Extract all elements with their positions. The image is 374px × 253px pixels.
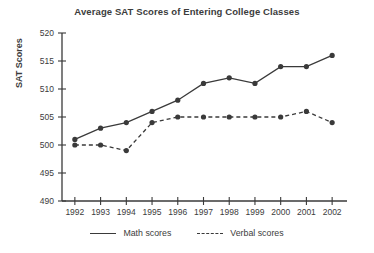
data-point-marker <box>124 148 129 153</box>
x-tick-label: 1996 <box>168 207 187 217</box>
data-point-marker <box>227 75 232 80</box>
x-tick-label: 1994 <box>117 207 136 217</box>
y-tick-label: 500 <box>40 140 54 150</box>
data-point-marker <box>98 126 103 131</box>
y-tick-label: 490 <box>40 196 54 206</box>
legend-entry-verbal: Verbal scores <box>197 228 283 238</box>
data-point-marker <box>98 142 103 147</box>
y-tick-label: 515 <box>40 56 54 66</box>
y-tick-label: 510 <box>40 84 54 94</box>
series-line-solid <box>75 55 332 139</box>
data-point-marker <box>72 137 77 142</box>
data-point-marker <box>149 120 154 125</box>
x-tick-label: 1998 <box>220 207 239 217</box>
data-point-marker <box>72 142 77 147</box>
legend-entry-math: Math scores <box>90 228 171 238</box>
data-point-marker <box>252 114 257 119</box>
data-point-marker <box>278 114 283 119</box>
data-series-layer <box>72 53 334 153</box>
chart-legend: Math scores Verbal scores <box>0 228 374 238</box>
legend-label-verbal: Verbal scores <box>230 228 283 238</box>
x-axis-ticks: 1992199319941995199619971998199920002001… <box>65 197 341 217</box>
x-tick-label: 2002 <box>323 207 342 217</box>
x-tick-label: 1993 <box>91 207 110 217</box>
x-tick-label: 2001 <box>297 207 316 217</box>
data-point-marker <box>175 98 180 103</box>
legend-label-math: Math scores <box>123 228 171 238</box>
x-tick-label: 1997 <box>194 207 213 217</box>
data-point-marker <box>304 109 309 114</box>
data-point-marker <box>252 81 257 86</box>
dashed-line-swatch <box>197 233 223 234</box>
y-tick-label: 495 <box>40 168 54 178</box>
y-tick-label: 520 <box>40 28 54 38</box>
x-tick-label: 1995 <box>143 207 162 217</box>
data-point-marker <box>330 120 335 125</box>
data-point-marker <box>201 81 206 86</box>
data-point-marker <box>175 114 180 119</box>
data-point-marker <box>330 53 335 58</box>
y-tick-label: 505 <box>40 112 54 122</box>
x-tick-label: 1992 <box>65 207 84 217</box>
data-point-marker <box>201 114 206 119</box>
data-point-marker <box>149 109 154 114</box>
x-tick-label: 2000 <box>271 207 290 217</box>
data-point-marker <box>304 64 309 69</box>
solid-line-swatch <box>90 233 116 234</box>
plot-area: 490495500505510515520 199219931994199519… <box>0 0 374 253</box>
data-point-marker <box>278 64 283 69</box>
data-point-marker <box>227 114 232 119</box>
x-tick-label: 1999 <box>245 207 264 217</box>
data-point-marker <box>124 120 129 125</box>
sat-scores-line-chart: Average SAT Scores of Entering College C… <box>0 0 374 253</box>
